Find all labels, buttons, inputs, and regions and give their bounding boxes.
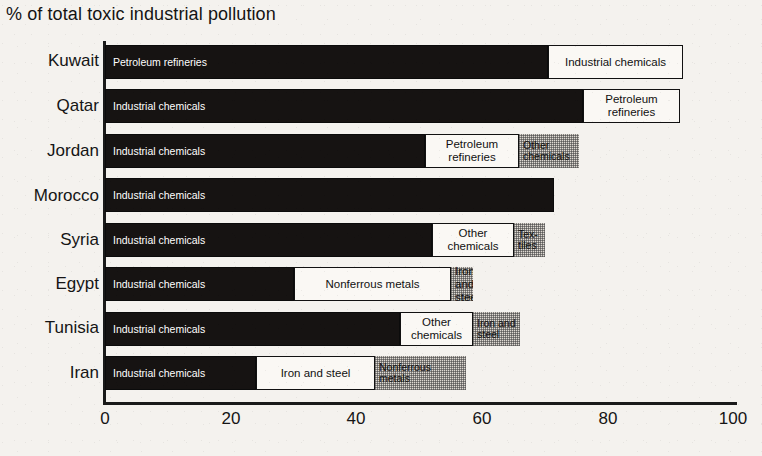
bar-segment-black: Industrial chemicals (105, 267, 294, 301)
bar-row: Industrial chemicals (105, 178, 554, 212)
bar-segment-black: Industrial chemicals (105, 134, 425, 168)
y-axis-label-syria: Syria (3, 230, 99, 250)
bar-segment-black: Petroleum refineries (105, 45, 548, 79)
y-axis-label-egypt: Egypt (3, 274, 99, 294)
bar-segment-white: Other chemicals (400, 312, 473, 346)
bar-segment-white: Petroleum refineries (425, 134, 519, 168)
bar-row: Petroleum refineries Industrial chemical… (105, 45, 683, 79)
x-axis-line (103, 402, 737, 405)
bar-row: Industrial chemicals Nonferrous metals I… (105, 267, 473, 301)
bar-segment-black: Industrial chemicals (105, 312, 400, 346)
y-axis-category-labels: Kuwait Qatar Jordan Morocco Syria Egypt … (0, 41, 99, 402)
y-axis-label-morocco: Morocco (3, 186, 99, 206)
bar-segment-white: Other chemicals (432, 223, 514, 257)
x-axis-tick-20: 20 (222, 409, 241, 429)
bar-segment-gray: Nonferrous metals (375, 356, 466, 390)
chart-title: % of total toxic industrial pollution (6, 4, 276, 25)
plot-area: Petroleum refineries Industrial chemical… (105, 41, 733, 402)
bar-chart: % of total toxic industrial pollution Ku… (0, 0, 762, 456)
x-axis-tick-0: 0 (100, 409, 109, 429)
bar-segment-gray: Iron and steel (451, 267, 473, 301)
y-axis-label-kuwait: Kuwait (3, 51, 99, 71)
bar-segment-white: Industrial chemicals (548, 45, 683, 79)
bar-segment-white: Nonferrous metals (294, 267, 451, 301)
y-axis-label-jordan: Jordan (3, 141, 99, 161)
bar-segment-black: Industrial chemicals (105, 89, 583, 123)
bar-segment-gray: Other chemicals (519, 134, 579, 168)
bar-segment-white: Iron and steel (256, 356, 375, 390)
bar-segment-gray: Iron and steel (473, 312, 520, 346)
bar-segment-white: Petroleum refineries (583, 89, 680, 123)
bar-segment-black: Industrial chemicals (105, 356, 256, 390)
bar-row: Industrial chemicals Other chemicals Iro… (105, 312, 520, 346)
bar-row: Industrial chemicals Iron and steel Nonf… (105, 356, 466, 390)
y-axis-label-tunisia: Tunisia (3, 318, 99, 338)
x-axis-tick-60: 60 (473, 409, 492, 429)
x-axis-tick-40: 40 (347, 409, 366, 429)
x-axis-tick-80: 80 (599, 409, 618, 429)
bar-segment-gray: Tex- tiles (514, 223, 545, 257)
bar-segment-black: Industrial chemicals (105, 178, 554, 212)
x-axis-tick-100: 100 (719, 409, 747, 429)
y-axis-label-qatar: Qatar (3, 96, 99, 116)
y-axis-label-iran: Iran (3, 363, 99, 383)
bar-row: Industrial chemicals Other chemicals Tex… (105, 223, 545, 257)
bar-row: Industrial chemicals Petroleum refinerie… (105, 134, 579, 168)
bar-segment-black: Industrial chemicals (105, 223, 432, 257)
bar-row: Industrial chemicals Petroleum refinerie… (105, 89, 680, 123)
